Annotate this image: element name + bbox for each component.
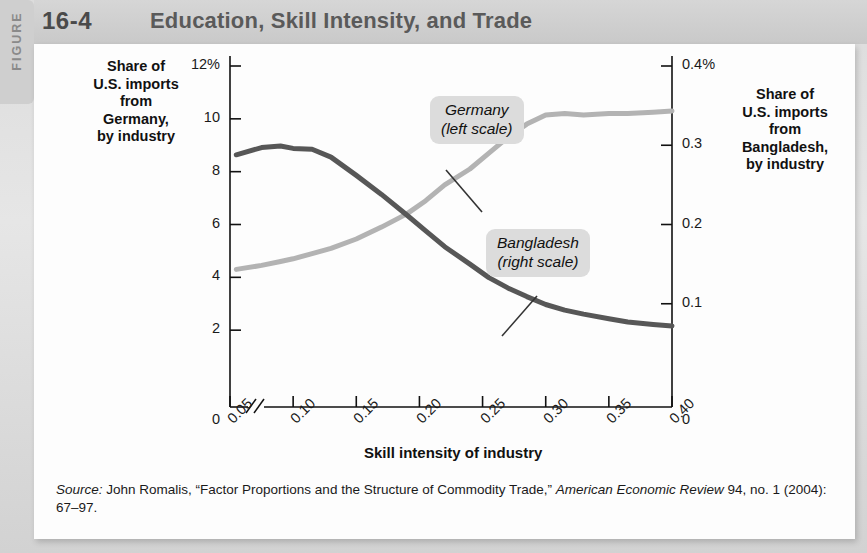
right-tick-label: 0.2 <box>682 215 742 231</box>
right-tick-label: 0.4% <box>682 56 742 72</box>
germany-callout-line2: (left scale) <box>441 119 513 138</box>
right-tick-label: 0.3 <box>682 135 742 151</box>
figure-page: FIGURE 16-4 Education, Skill Intensity, … <box>0 0 867 553</box>
figure-card: Share of U.S. imports from Germany, by i… <box>34 44 855 539</box>
figure-tab: FIGURE <box>0 0 34 104</box>
left-tick-label: 6 <box>164 215 220 231</box>
figure-title: Education, Skill Intensity, and Trade <box>150 8 532 34</box>
left-tick-label: 2 <box>164 320 220 336</box>
bangladesh-callout-leader <box>502 296 537 336</box>
germany-series-callout: Germany (left scale) <box>430 96 524 144</box>
source-text-a: John Romalis, “Factor Proportions and th… <box>103 482 556 497</box>
bangladesh-line-series <box>236 146 672 326</box>
figure-number: 16-4 <box>42 7 92 35</box>
right-tick-label: 0.1 <box>682 294 742 310</box>
germany-callout-line1: Germany <box>441 100 513 119</box>
figure-tab-label: FIGURE <box>10 1 24 81</box>
source-journal: American Economic Review <box>556 482 724 497</box>
right-tick-label: 0 <box>682 411 742 427</box>
bangladesh-series-callout: Bangladesh (right scale) <box>486 229 590 277</box>
source-note: Source: John Romalis, “Factor Proportion… <box>56 481 836 516</box>
left-tick-label: 0 <box>164 411 220 427</box>
germany-callout-leader <box>446 170 482 212</box>
bangladesh-callout-line1: Bangladesh <box>497 233 579 252</box>
source-label: Source: <box>56 482 103 497</box>
left-tick-label: 12% <box>164 56 220 72</box>
left-tick-label: 4 <box>164 267 220 283</box>
left-tick-label: 8 <box>164 162 220 178</box>
left-tick-label: 10 <box>164 109 220 125</box>
bangladesh-callout-line2: (right scale) <box>497 252 579 271</box>
